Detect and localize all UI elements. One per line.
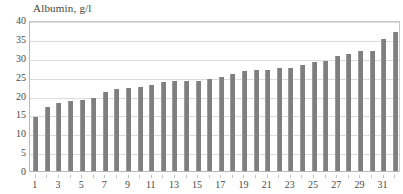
x-tick-label: 11	[141, 179, 161, 191]
x-tick-mark	[313, 175, 314, 178]
albumin-bar-chart: Albumin, g/l 0510152025303540 1357911131…	[0, 0, 403, 194]
x-tick-label: 15	[187, 179, 207, 191]
bar	[149, 85, 154, 171]
bar	[138, 87, 143, 171]
x-tick-label: 29	[349, 179, 369, 191]
bar	[126, 88, 131, 171]
y-tick-label: 40	[2, 16, 26, 26]
y-tick-label: 30	[2, 54, 26, 64]
x-tick-mark	[35, 175, 36, 178]
bar	[312, 62, 317, 171]
bar	[219, 77, 224, 171]
bar	[393, 32, 398, 171]
bar	[56, 103, 61, 171]
x-tick-label: 1	[25, 179, 45, 191]
x-tick-mark	[81, 175, 82, 178]
bar	[254, 70, 259, 171]
x-tick-mark	[301, 175, 302, 178]
y-tick-label: 25	[2, 73, 26, 83]
x-tick-label: 9	[118, 179, 138, 191]
plot-area	[29, 21, 400, 172]
bar	[196, 81, 201, 171]
x-tick-mark	[325, 175, 326, 178]
x-tick-label: 17	[210, 179, 230, 191]
x-tick-mark	[70, 175, 71, 178]
bar	[288, 68, 293, 171]
x-tick-mark	[383, 175, 384, 178]
x-tick-mark	[139, 175, 140, 178]
x-tick-mark	[197, 175, 198, 178]
bar	[184, 81, 189, 171]
x-tick-label: 25	[303, 179, 323, 191]
y-tick-label: 0	[2, 167, 26, 177]
x-tick-mark	[336, 175, 337, 178]
x-tick-label: 23	[280, 179, 300, 191]
x-axis: 135791113151719212325272931	[29, 175, 400, 193]
x-tick-mark	[267, 175, 268, 178]
x-tick-label: 21	[257, 179, 277, 191]
bar	[80, 100, 85, 171]
x-tick-mark	[348, 175, 349, 178]
x-tick-mark	[46, 175, 47, 178]
bar	[230, 74, 235, 171]
x-tick-label: 31	[373, 179, 393, 191]
y-axis: 0510152025303540	[0, 21, 26, 172]
x-tick-mark	[243, 175, 244, 178]
x-tick-label: 7	[94, 179, 114, 191]
bar	[358, 51, 363, 171]
x-tick-mark	[104, 175, 105, 178]
bar	[277, 68, 282, 171]
x-tick-mark	[116, 175, 117, 178]
bar	[172, 81, 177, 171]
x-tick-mark	[58, 175, 59, 178]
bar	[381, 39, 386, 171]
y-tick-label: 10	[2, 129, 26, 139]
x-tick-label: 3	[48, 179, 68, 191]
bar	[300, 65, 305, 171]
x-tick-mark	[209, 175, 210, 178]
x-tick-mark	[278, 175, 279, 178]
bar-series	[30, 22, 399, 171]
x-tick-mark	[359, 175, 360, 178]
x-tick-mark	[290, 175, 291, 178]
chart-title: Albumin, g/l	[33, 2, 92, 14]
bar	[161, 82, 166, 171]
bar	[242, 71, 247, 171]
bar	[45, 107, 50, 171]
x-tick-mark	[255, 175, 256, 178]
y-tick-label: 20	[2, 92, 26, 102]
x-tick-mark	[232, 175, 233, 178]
x-tick-mark	[162, 175, 163, 178]
x-tick-label: 27	[326, 179, 346, 191]
x-tick-label: 5	[71, 179, 91, 191]
y-tick-label: 5	[2, 148, 26, 158]
y-tick-label: 35	[2, 35, 26, 45]
bar	[323, 61, 328, 171]
y-tick-label: 15	[2, 110, 26, 120]
bar	[335, 56, 340, 171]
bar	[207, 79, 212, 171]
bar	[33, 117, 38, 171]
x-tick-mark	[151, 175, 152, 178]
x-tick-mark	[220, 175, 221, 178]
bar	[265, 70, 270, 171]
x-tick-mark	[394, 175, 395, 178]
bar	[103, 92, 108, 171]
bar	[91, 98, 96, 171]
x-tick-mark	[186, 175, 187, 178]
x-tick-label: 13	[164, 179, 184, 191]
x-tick-mark	[128, 175, 129, 178]
bar	[68, 101, 73, 171]
x-tick-mark	[371, 175, 372, 178]
bar	[346, 54, 351, 171]
x-tick-mark	[174, 175, 175, 178]
bar	[370, 51, 375, 171]
x-tick-mark	[93, 175, 94, 178]
x-tick-label: 19	[233, 179, 253, 191]
bar	[114, 89, 119, 171]
